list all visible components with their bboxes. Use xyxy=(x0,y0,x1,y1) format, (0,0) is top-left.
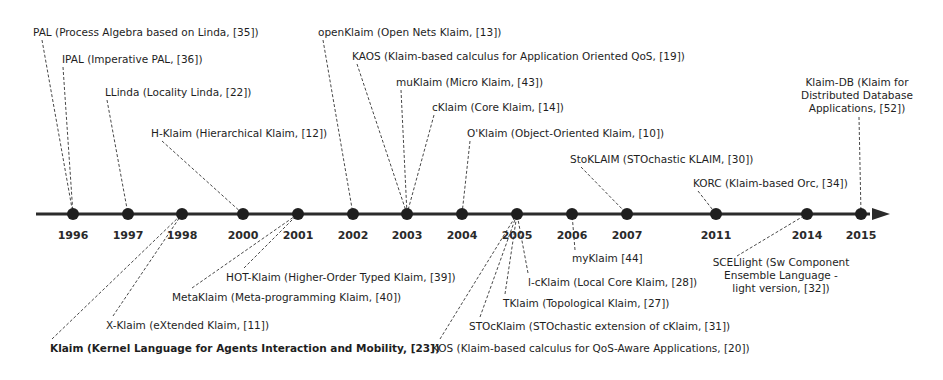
year-label-2004: 2004 xyxy=(447,229,478,242)
year-label-2006: 2006 xyxy=(557,229,588,242)
event-label: KAOS (Klaim-based calculus for Applicati… xyxy=(352,50,685,62)
klaim-timeline-diagram: 1996199719982000200120022003200420052006… xyxy=(0,0,943,380)
event-label-line: PAL (Process Algebra based on Linda, [35… xyxy=(33,26,259,38)
year-marker-2014 xyxy=(801,208,813,220)
leader-line xyxy=(517,214,528,273)
year-marker-2001 xyxy=(292,208,304,220)
year-label-2011: 2011 xyxy=(701,229,732,242)
event-label-line: openKlaim (Open Nets Klaim, [13]) xyxy=(318,26,501,38)
leader-line xyxy=(505,214,517,294)
event-label: IPAL (Imperative PAL, [36]) xyxy=(62,53,203,65)
year-marker-2003 xyxy=(401,208,413,220)
year-label-2003: 2003 xyxy=(392,229,423,242)
year-label-1998: 1998 xyxy=(167,229,198,242)
event-label: X-Klaim (eXtended Klaim, [11]) xyxy=(106,319,269,331)
event-label-line: Klaim-DB (Klaim for xyxy=(805,76,909,88)
event-label-line: myKlaim [44] xyxy=(572,252,643,264)
year-label-2005: 2005 xyxy=(502,229,533,242)
event-label: SCELlight (Sw ComponentEnsemble Language… xyxy=(713,256,850,294)
event-label: PAL (Process Algebra based on Linda, [35… xyxy=(33,26,259,38)
event-label-line: LLinda (Locality Linda, [22]) xyxy=(105,86,251,98)
event-label: TKlaim (Topological Klaim, [27]) xyxy=(502,297,669,309)
leader-line xyxy=(323,40,353,214)
event-label: cKlaim (Core Klaim, [14]) xyxy=(432,101,564,113)
event-label: muKlaim (Micro Klaim, [43]) xyxy=(396,76,543,88)
event-label: H-Klaim (Hierarchical Klaim, [12]) xyxy=(151,127,327,139)
event-label-line: l-cKlaim (Local Core Klaim, [28]) xyxy=(528,276,697,288)
event-label-line: X-Klaim (eXtended Klaim, [11]) xyxy=(106,319,269,331)
year-label-1997: 1997 xyxy=(113,229,144,242)
year-marker-2005 xyxy=(511,208,523,220)
event-label: KORC (Klaim-based Orc, [34]) xyxy=(693,177,848,189)
event-label-line: Applications, [52]) xyxy=(809,102,905,114)
year-label-2015: 2015 xyxy=(846,229,877,242)
leader-line xyxy=(162,141,243,214)
year-label-2000: 2000 xyxy=(228,229,259,242)
year-marker-1996 xyxy=(67,208,79,220)
year-label-2007: 2007 xyxy=(612,229,643,242)
event-label-line: Klaim (Kernel Language for Agents Intera… xyxy=(50,342,440,354)
event-label-line: KAOS (Klaim-based calculus for Applicati… xyxy=(352,50,685,62)
event-label: STOcKlaim (STOchastic extension of cKlai… xyxy=(469,320,730,332)
year-marker-1998 xyxy=(176,208,188,220)
event-label-line: H-Klaim (Hierarchical Klaim, [12]) xyxy=(151,127,327,139)
event-label: Klaim-DB (Klaim forDistributed DatabaseA… xyxy=(801,76,913,114)
year-label-1996: 1996 xyxy=(58,229,89,242)
event-label: Klaim (Kernel Language for Agents Intera… xyxy=(50,342,440,354)
event-label-line: KORC (Klaim-based Orc, [34]) xyxy=(693,177,848,189)
year-label-2014: 2014 xyxy=(792,229,823,242)
year-marker-2004 xyxy=(456,208,468,220)
year-marker-1997 xyxy=(122,208,134,220)
event-labels: PAL (Process Algebra based on Linda, [35… xyxy=(33,26,913,354)
event-label-line: SCELlight (Sw Component xyxy=(713,256,850,268)
event-label-line: STOcKlaim (STOchastic extension of cKlai… xyxy=(469,320,730,332)
year-marker-2002 xyxy=(347,208,359,220)
year-marker-2007 xyxy=(621,208,633,220)
event-label-line: cKlaim (Core Klaim, [14]) xyxy=(432,101,564,113)
event-label: openKlaim (Open Nets Klaim, [13]) xyxy=(318,26,501,38)
leader-line xyxy=(42,40,73,214)
leader-line xyxy=(859,117,861,214)
year-labels: 1996199719982000200120022003200420052006… xyxy=(58,229,877,242)
event-label-line: light version, [32]) xyxy=(732,282,829,294)
leader-line xyxy=(107,100,128,214)
event-label-line: StoKLAIM (STOchastic KLAIM, [30]) xyxy=(570,153,753,165)
event-label-line: IPAL (Imperative PAL, [36]) xyxy=(62,53,203,65)
event-label: StoKLAIM (STOchastic KLAIM, [30]) xyxy=(570,153,753,165)
year-marker-2015 xyxy=(855,208,867,220)
event-label-line: muKlaim (Micro Klaim, [43]) xyxy=(396,76,543,88)
leader-line xyxy=(401,90,407,214)
event-label: myKlaim [44] xyxy=(572,252,643,264)
year-marker-2000 xyxy=(237,208,249,220)
event-label-line: KOS (Klaim-based calculus for QoS-Aware … xyxy=(432,342,750,354)
leader-line xyxy=(63,67,73,214)
event-label: O'Klaim (Object-Oriented Klaim, [10]) xyxy=(467,127,664,139)
event-label-line: HOT-Klaim (Higher-Order Typed Klaim, [39… xyxy=(226,271,456,283)
year-label-2002: 2002 xyxy=(338,229,369,242)
event-label: KOS (Klaim-based calculus for QoS-Aware … xyxy=(432,342,750,354)
event-label: LLinda (Locality Linda, [22]) xyxy=(105,86,251,98)
year-label-2001: 2001 xyxy=(283,229,314,242)
event-label-line: TKlaim (Topological Klaim, [27]) xyxy=(502,297,669,309)
event-label: MetaKlaim (Meta-programming Klaim, [40]) xyxy=(172,291,401,303)
leader-line xyxy=(581,167,627,214)
arrow-head-icon xyxy=(872,208,890,220)
event-label: l-cKlaim (Local Core Klaim, [28]) xyxy=(528,276,697,288)
event-label: HOT-Klaim (Higher-Order Typed Klaim, [39… xyxy=(226,271,456,283)
leader-line xyxy=(462,141,470,214)
event-label-line: O'Klaim (Object-Oriented Klaim, [10]) xyxy=(467,127,664,139)
year-marker-2006 xyxy=(566,208,578,220)
event-label-line: MetaKlaim (Meta-programming Klaim, [40]) xyxy=(172,291,401,303)
event-label-line: Distributed Database xyxy=(801,89,913,101)
leader-line xyxy=(407,115,434,214)
year-marker-2011 xyxy=(710,208,722,220)
event-label-line: Ensemble Language - xyxy=(724,269,838,281)
